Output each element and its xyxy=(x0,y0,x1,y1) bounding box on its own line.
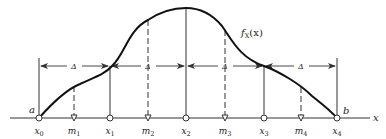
svg-text:x0: x0 xyxy=(34,126,43,138)
svg-text:Δ: Δ xyxy=(297,62,304,71)
endpoint-a-label: a xyxy=(29,104,35,115)
axis-label-x: x xyxy=(373,112,379,123)
tick-labels: x0 m1 x1 m2 x2 m3 x3 m4 x4 xyxy=(34,126,341,138)
svg-text:Δ: Δ xyxy=(144,62,151,71)
curve-label: fX(x) xyxy=(240,27,263,40)
svg-text:m1: m1 xyxy=(68,126,81,138)
svg-text:x3: x3 xyxy=(259,126,268,138)
svg-text:Δ: Δ xyxy=(70,62,77,71)
svg-text:Δ: Δ xyxy=(221,62,228,71)
delta-labels: Δ Δ Δ Δ xyxy=(70,62,304,71)
pdf-integration-diagram: x Δ Δ Δ Δ fX(x) a b xyxy=(0,0,386,139)
svg-text:m2: m2 xyxy=(142,126,155,138)
svg-text:m3: m3 xyxy=(219,126,232,138)
density-curve xyxy=(39,8,337,118)
svg-text:m4: m4 xyxy=(295,126,308,138)
boundary-lines xyxy=(39,8,337,118)
endpoint-b-label: b xyxy=(343,105,349,116)
svg-text:x1: x1 xyxy=(105,126,114,138)
svg-text:x2: x2 xyxy=(181,126,190,138)
svg-text:x4: x4 xyxy=(332,126,341,138)
